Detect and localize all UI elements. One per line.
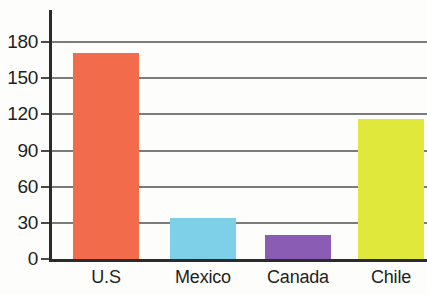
bar-mexico[interactable] [170, 218, 236, 259]
y-axis-tick-label: 180 [0, 32, 38, 51]
y-axis-tick-label: 90 [0, 141, 38, 160]
x-axis-label-u-s: U.S [73, 266, 139, 288]
plot-area: 0306090120150180 U.SMexicoCanadaChile [0, 0, 427, 294]
y-axis-tick-label: 0 [0, 249, 38, 268]
gridline [51, 41, 427, 43]
bar-chart: 0306090120150180 U.SMexicoCanadaChile [0, 0, 427, 294]
y-axis-tick-label: 30 [0, 213, 38, 232]
bar-u-s[interactable] [73, 53, 139, 259]
x-axis-line [49, 259, 427, 262]
x-axis-label-canada: Canada [265, 266, 331, 288]
y-axis-line [49, 10, 52, 261]
x-axis-label-mexico: Mexico [170, 266, 236, 288]
y-axis-tick-label: 60 [0, 177, 38, 196]
y-axis-tick-label: 150 [0, 68, 38, 87]
bar-chile[interactable] [358, 119, 424, 259]
bar-canada[interactable] [265, 235, 331, 259]
x-axis-label-chile: Chile [358, 266, 424, 288]
y-axis-tick-label: 120 [0, 104, 38, 123]
